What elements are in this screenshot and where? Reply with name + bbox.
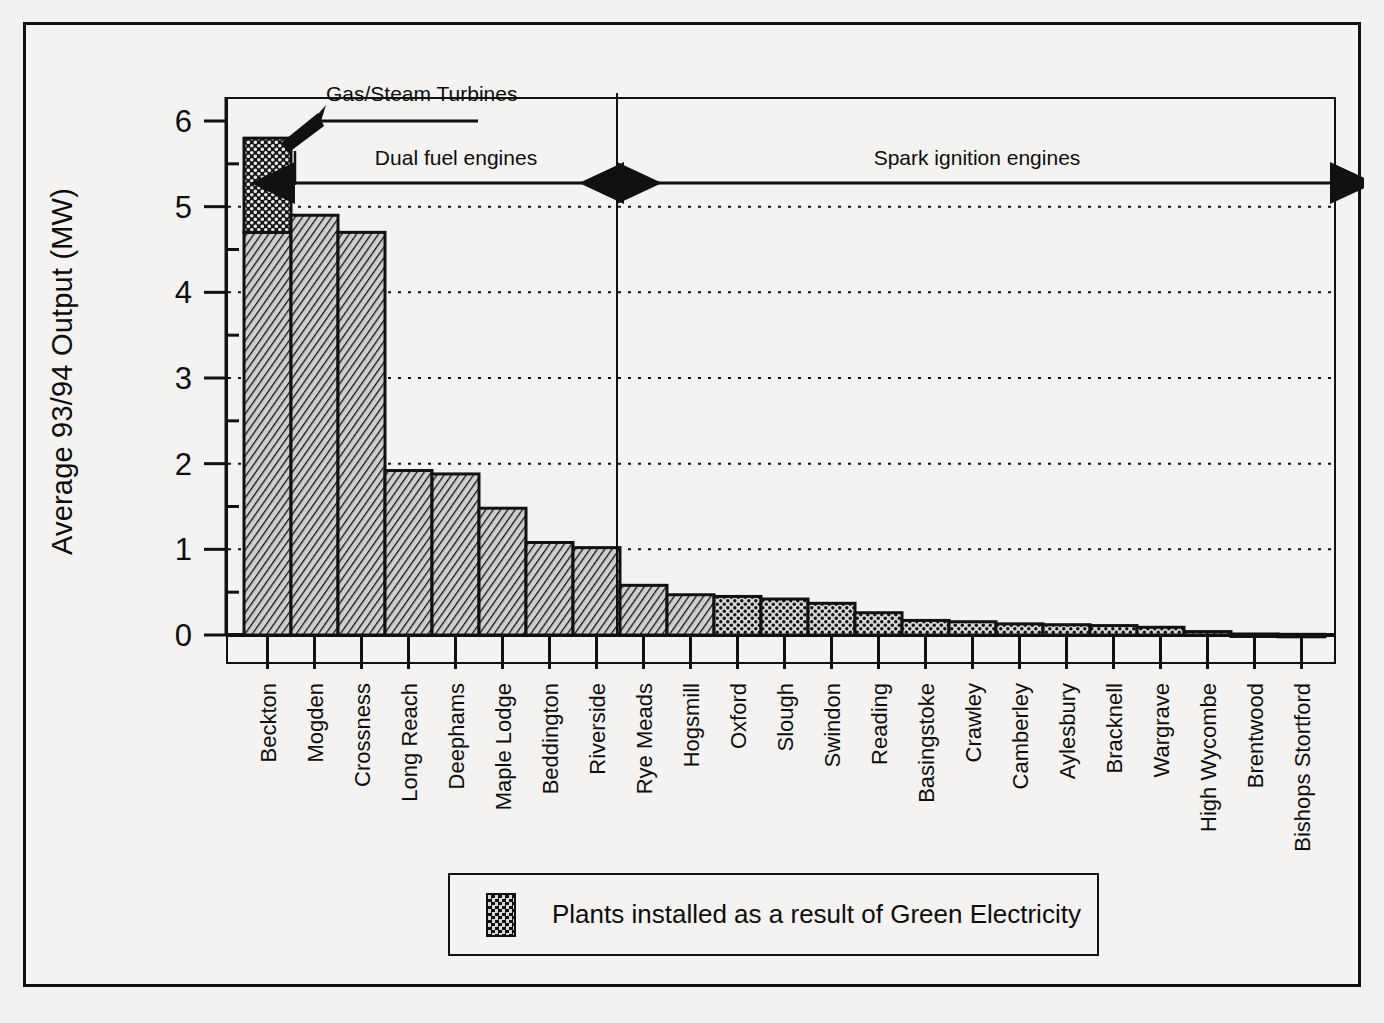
x-axis-label: Camberley	[1008, 683, 1033, 789]
x-axis-label: Rye Meads	[632, 683, 657, 794]
svg-text:1: 1	[175, 532, 192, 567]
bar-existing	[385, 471, 432, 635]
bar-existing	[573, 548, 620, 635]
bar-green-electricity	[761, 599, 808, 635]
legend-label: Plants installed as a result of Green El…	[552, 899, 1081, 930]
bar-green-electricity	[714, 596, 761, 635]
y-axis-tick-labels: 0123456	[175, 104, 192, 653]
bar-green-electricity	[244, 138, 291, 232]
legend: Plants installed as a result of Green El…	[448, 873, 1099, 956]
x-axis-label: Riverside	[585, 683, 610, 775]
x-axis-label: Beckton	[256, 683, 281, 763]
x-axis-ticks	[268, 637, 1302, 669]
bar-green-electricity	[1231, 634, 1278, 637]
x-axis-label: Wargrave	[1149, 683, 1174, 778]
x-axis-label: Slough	[773, 683, 798, 752]
svg-text:5: 5	[175, 190, 192, 225]
annotation-gas-steam: Gas/Steam Turbines	[326, 82, 517, 105]
x-axis-label: Beddington	[538, 683, 563, 794]
bar-existing	[244, 232, 291, 635]
svg-text:6: 6	[175, 104, 192, 139]
svg-text:3: 3	[175, 361, 192, 396]
x-axis-label: Bracknell	[1102, 683, 1127, 773]
svg-text:4: 4	[175, 275, 192, 310]
bar-green-electricity	[949, 622, 996, 635]
bar-series-group	[244, 138, 1325, 637]
x-axis-label: Reading	[867, 683, 892, 765]
x-axis-label: Maple Lodge	[491, 683, 516, 810]
figure-outer-frame: Average 93/94 Output (MW)	[23, 22, 1361, 987]
x-axis-label: Aylesbury	[1055, 683, 1080, 779]
x-axis-label: High Wycombe	[1196, 683, 1221, 832]
bar-existing	[620, 585, 667, 635]
x-axis-label: Mogden	[303, 683, 328, 763]
annotation-dual-fuel: Dual fuel engines	[375, 146, 537, 169]
bar-existing	[667, 595, 714, 635]
annotation-spark-ignition: Spark ignition engines	[874, 146, 1081, 169]
x-axis-label: Deephams	[444, 683, 469, 789]
bar-existing	[526, 542, 573, 635]
x-axis-category-labels: BecktonMogdenCrossnessLong ReachDeephams…	[256, 683, 1315, 852]
bar-green-electricity	[1278, 634, 1325, 637]
bar-existing	[479, 508, 526, 635]
legend-swatch-green-electricity	[486, 893, 516, 937]
bar-existing	[338, 232, 385, 635]
bar-chart-svg: 0123456 BecktonMogdenCrossnessLong Reach…	[26, 25, 1364, 990]
x-axis-label: Brentwood	[1243, 683, 1268, 788]
svg-text:2: 2	[175, 447, 192, 482]
x-axis-label: Oxford	[726, 683, 751, 749]
bar-green-electricity	[1137, 627, 1184, 635]
bar-green-electricity	[1090, 626, 1137, 635]
x-axis-label: Bishops Stortford	[1290, 683, 1315, 852]
bar-existing	[291, 215, 338, 635]
x-axis-label: Basingstoke	[914, 683, 939, 803]
x-axis-label: Hogsmill	[679, 683, 704, 767]
x-axis-label: Crawley	[961, 683, 986, 762]
x-axis-label: Long Reach	[397, 683, 422, 802]
bar-green-electricity	[1184, 632, 1231, 635]
x-axis-label: Swindon	[820, 683, 845, 767]
bar-green-electricity	[1043, 625, 1090, 635]
bar-existing	[432, 474, 479, 635]
bar-green-electricity	[902, 620, 949, 635]
bar-green-electricity	[808, 603, 855, 635]
x-axis-label: Crossness	[350, 683, 375, 787]
bar-green-electricity	[996, 624, 1043, 635]
bar-green-electricity	[855, 613, 902, 635]
svg-text:0: 0	[175, 618, 192, 653]
